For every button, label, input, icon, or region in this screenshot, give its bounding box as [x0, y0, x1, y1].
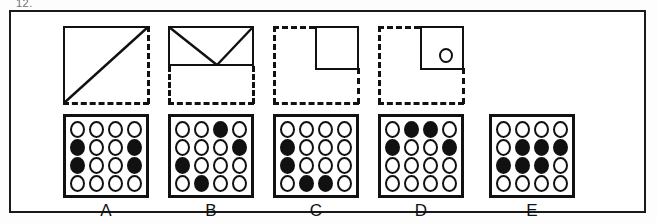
pip-filled	[70, 157, 85, 174]
pip-filled	[553, 139, 568, 156]
pip-empty	[553, 157, 568, 174]
shape-a-box	[63, 26, 149, 104]
pip-empty	[127, 121, 142, 138]
option-label-a: A	[63, 201, 149, 221]
shape-c-edge-top-left-dashed	[273, 26, 315, 29]
pip-empty	[175, 121, 190, 138]
pip-filled	[515, 139, 530, 156]
pip-filled	[280, 157, 295, 174]
pip-empty	[423, 139, 438, 156]
pip-empty	[70, 175, 85, 192]
pip-row	[494, 174, 570, 192]
pip-empty	[404, 139, 419, 156]
pip-row	[494, 120, 570, 138]
shape-d-edge-left-dashed	[378, 26, 381, 104]
pip-filled	[127, 157, 142, 174]
pip-empty	[423, 175, 438, 192]
pip-empty	[194, 139, 209, 156]
pip-grid-e	[489, 114, 575, 198]
pip-row	[68, 120, 144, 138]
pip-empty	[89, 175, 104, 192]
pip-empty	[299, 121, 314, 138]
shape-c-edge-right-lower-dashed	[357, 68, 360, 104]
option-label-b: B	[168, 201, 254, 221]
pip-empty	[108, 157, 123, 174]
pip-empty	[194, 157, 209, 174]
pip-empty	[423, 157, 438, 174]
pip-row	[68, 156, 144, 174]
answer-option-b[interactable]: B	[168, 114, 254, 221]
option-label-e: E	[489, 201, 575, 221]
pip-filled	[515, 157, 530, 174]
pip-filled	[70, 139, 85, 156]
answer-option-row: A B C D E	[11, 104, 644, 215]
option-label-d: D	[378, 201, 464, 221]
pip-row	[494, 138, 570, 156]
pip-empty	[385, 175, 400, 192]
pip-filled	[318, 175, 333, 192]
pip-empty	[280, 121, 295, 138]
pip-empty	[318, 139, 333, 156]
pip-empty	[534, 121, 549, 138]
pip-empty	[127, 175, 142, 192]
pip-row	[278, 138, 354, 156]
pip-empty	[385, 157, 400, 174]
pip-filled	[175, 157, 190, 174]
pip-row	[173, 156, 249, 174]
pip-filled	[280, 139, 295, 156]
shape-a-diagonal	[63, 26, 149, 104]
pip-row	[278, 174, 354, 192]
pip-empty	[194, 121, 209, 138]
pip-filled	[423, 121, 438, 138]
answer-option-d[interactable]: D	[378, 114, 464, 221]
stimulus-shape-b	[168, 26, 254, 104]
pip-empty	[496, 121, 511, 138]
pip-empty	[337, 139, 352, 156]
pip-filled	[442, 139, 457, 156]
stimulus-shape-a	[63, 26, 149, 104]
answer-option-c[interactable]: C	[273, 114, 359, 221]
pip-filled	[213, 121, 228, 138]
pip-empty	[318, 157, 333, 174]
pip-row	[494, 156, 570, 174]
pip-empty	[337, 175, 352, 192]
pip-row	[278, 120, 354, 138]
shape-d-inner-circle-icon	[439, 48, 453, 63]
pip-empty	[213, 139, 228, 156]
pip-empty	[515, 121, 530, 138]
pip-row	[173, 174, 249, 192]
option-label-c: C	[273, 201, 359, 221]
pip-empty	[232, 121, 247, 138]
pip-filled	[232, 139, 247, 156]
pip-empty	[89, 139, 104, 156]
pip-empty	[232, 157, 247, 174]
pip-empty	[337, 121, 352, 138]
pip-row	[68, 174, 144, 192]
pip-grid-d	[378, 114, 464, 198]
pip-filled	[496, 157, 511, 174]
stimulus-shape-row	[11, 12, 644, 104]
pip-empty	[213, 175, 228, 192]
pip-empty	[213, 157, 228, 174]
pip-filled	[299, 175, 314, 192]
pip-row	[383, 120, 459, 138]
pip-filled	[534, 139, 549, 156]
answer-option-a[interactable]: A	[63, 114, 149, 221]
answer-option-e[interactable]: E	[489, 114, 575, 221]
pip-empty	[318, 121, 333, 138]
pip-empty	[553, 175, 568, 192]
pip-empty	[232, 175, 247, 192]
pip-row	[68, 138, 144, 156]
pip-grid-b	[168, 114, 254, 198]
scanned-page: 12.	[0, 0, 657, 223]
stimulus-shape-d	[378, 26, 464, 104]
pip-empty	[515, 175, 530, 192]
pip-empty	[108, 139, 123, 156]
pip-empty	[404, 175, 419, 192]
pip-row	[173, 120, 249, 138]
pip-row	[383, 156, 459, 174]
pip-empty	[385, 121, 400, 138]
pip-empty	[404, 157, 419, 174]
stimulus-shape-c	[273, 26, 359, 104]
shape-c-box	[273, 26, 359, 104]
